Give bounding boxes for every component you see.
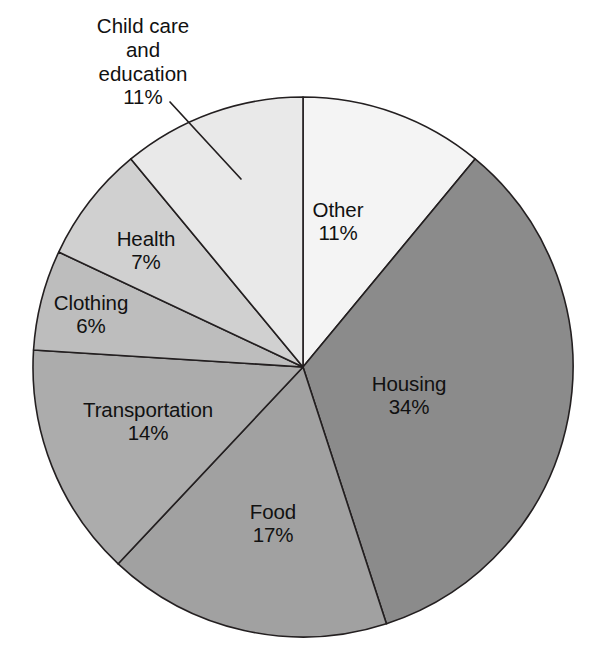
pie-label-housing-name: Housing [372,372,447,395]
pie-label-other-name: Other [313,198,364,221]
pie-label-childcare-line3: education [97,62,189,86]
pie-label-clothing-name: Clothing [54,291,128,314]
pie-label-transportation: Transportation 14% [83,398,213,445]
pie-label-transportation-name: Transportation [83,398,213,421]
pie-label-housing-value: 34% [372,395,447,418]
pie-label-childcare-value: 11% [97,85,189,109]
pie-label-health-value: 7% [117,250,176,273]
pie-label-childcare: Child care and education 11% [97,14,189,109]
pie-label-food-name: Food [250,500,296,523]
pie-label-childcare-line1: Child care [97,14,189,38]
pie-label-clothing: Clothing 6% [54,291,128,338]
pie-label-other: Other 11% [313,198,364,245]
pie-label-other-value: 11% [313,221,364,244]
pie-slices [33,97,573,637]
pie-label-health-name: Health [117,227,176,250]
pie-label-food: Food 17% [250,500,296,547]
pie-chart: Other 11% Housing 34% Food 17% Transport… [0,0,610,657]
pie-label-housing: Housing 34% [372,372,447,419]
pie-label-transportation-value: 14% [83,421,213,444]
pie-label-clothing-value: 6% [54,314,128,337]
pie-label-food-value: 17% [250,523,296,546]
pie-label-childcare-line2: and [97,38,189,62]
pie-label-health: Health 7% [117,227,176,274]
